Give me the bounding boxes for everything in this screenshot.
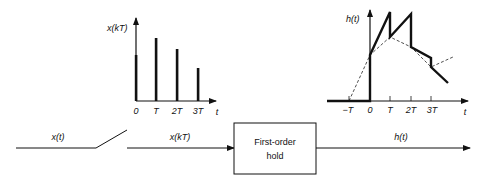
diagram-canvas: x(kT) 0 T 2T 3T t h(t) −T 0 T 2T 3T t x(… [0,0,480,186]
tick-3T: 3T [193,106,205,116]
first-order-hold-block [234,123,316,174]
x-axis-label: t [464,107,467,117]
tick-2T: 2T [405,105,418,115]
hold-output-curve [327,12,448,101]
x-axis-label: t [216,107,219,117]
interpolation-dashed-line [349,37,453,101]
tick-T: T [387,105,394,115]
sampled-label: x(kT) [169,132,191,142]
y-axis-label: h(t) [346,14,360,24]
tick-0: 0 [133,106,138,116]
sample-bar-3 [197,68,200,101]
sampler-switch-icon [96,130,127,148]
sample-bar-1 [155,38,158,101]
tick-minus-T: −T [343,105,355,115]
output-label: h(t) [394,132,408,142]
tick-2T: 2T [171,106,184,116]
input-label: x(t) [51,132,65,142]
tick-0: 0 [367,105,372,115]
block-diagram: x(t) x(kT) First-order hold h(t) [16,123,470,174]
block-label-line1: First-order [254,137,296,147]
tick-T: T [153,106,160,116]
sample-bar-2 [176,49,179,101]
y-axis-label: x(kT) [106,23,128,33]
block-label-line2: hold [266,151,283,161]
sampled-signal-plot: x(kT) 0 T 2T 3T t [106,18,219,117]
hold-output-plot: h(t) −T 0 T 2T 3T t [327,10,468,117]
sample-bar-0 [135,55,138,101]
tick-3T: 3T [427,105,439,115]
